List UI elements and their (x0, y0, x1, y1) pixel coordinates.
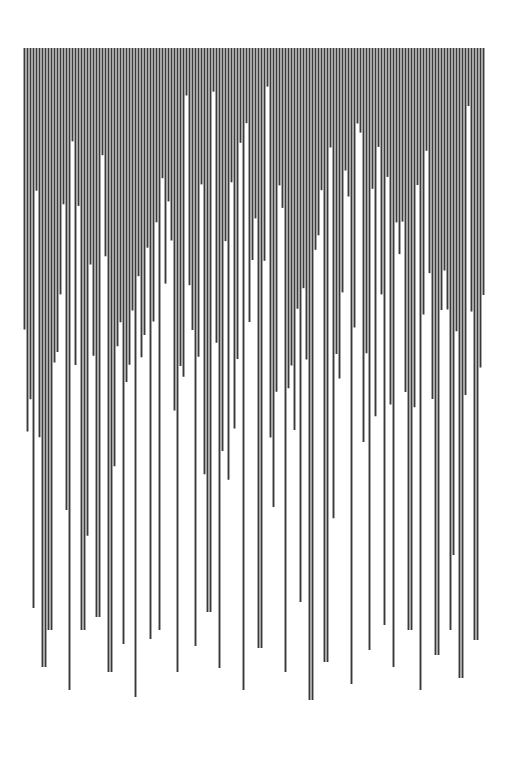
vertical-lines-artwork (0, 0, 513, 769)
